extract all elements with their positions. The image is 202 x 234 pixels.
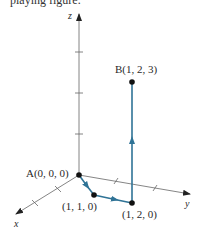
x-axis-label: x (13, 218, 19, 229)
z-axis-label: z (67, 10, 72, 21)
point-1-2-0 (129, 200, 135, 206)
y-axis-label: y (184, 198, 190, 209)
point-a-label: A(0, 0, 0) (26, 167, 69, 180)
point-1-1-0 (91, 192, 97, 198)
path (79, 82, 132, 203)
z-axis: z (67, 10, 83, 175)
point-1-1-0-label: (1, 1, 0) (62, 200, 97, 213)
path-segment-p1-p2-arrow (94, 195, 115, 200)
point-a (76, 172, 82, 178)
point-b (129, 79, 135, 85)
point-1-2-0-label: (1, 2, 0) (122, 208, 157, 221)
coordinate-diagram: z x y A(0, 0, 0) (1, 1, 0) (1, 2, 0) B(1… (0, 0, 202, 234)
point-b-label: B(1, 2, 3) (115, 63, 158, 76)
